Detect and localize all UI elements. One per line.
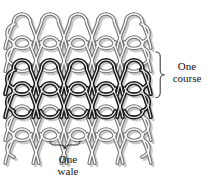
course-label-line2: course <box>166 72 208 84</box>
course-label-line1: One <box>166 60 208 72</box>
knit-structure-diagram: One course One wale <box>0 0 208 187</box>
wale-brace <box>50 141 80 149</box>
course-brace <box>156 52 164 98</box>
wale-label-line2: wale <box>44 165 92 177</box>
wale-annotation-label: One wale <box>44 153 92 177</box>
course-annotation-label: One course <box>166 60 208 84</box>
annotation-layer <box>0 0 208 187</box>
wale-label-line1: One <box>44 153 92 165</box>
